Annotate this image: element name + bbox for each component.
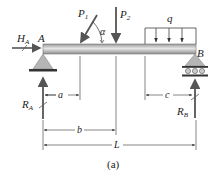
label-q: q [167, 12, 173, 24]
label-b: B [197, 47, 204, 59]
label-dim-c: c [165, 89, 170, 100]
beam [43, 44, 196, 54]
extension-lines [43, 56, 196, 150]
label-p1: P1 [77, 7, 88, 21]
reaction-ra-arrow [39, 78, 47, 119]
label-ha: HA [16, 32, 30, 46]
label-alpha: α [100, 26, 106, 37]
figure-caption: (a) [107, 158, 120, 171]
label-dim-b: b [77, 124, 82, 135]
distributed-load-q [145, 28, 196, 44]
label-dim-l: L [113, 139, 120, 150]
reaction-rb-arrow [191, 80, 199, 118]
label-p2: P2 [119, 8, 131, 22]
label-rb: RB [176, 105, 189, 119]
label-a: A [37, 32, 45, 44]
roller-support-b [182, 54, 208, 77]
pin-support-a [29, 54, 57, 72]
label-ra: RA [21, 98, 34, 112]
simply-supported-beam-diagram: HA A RA RB B P1 α P2 q [0, 0, 220, 178]
label-dim-a: a [58, 89, 63, 100]
